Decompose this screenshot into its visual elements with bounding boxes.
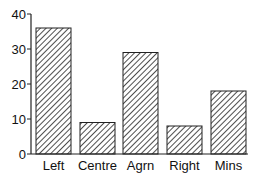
y-tick-label: 0 xyxy=(19,147,26,162)
bars xyxy=(36,28,246,154)
bar-centre xyxy=(80,123,115,155)
y-tick-label: 40 xyxy=(12,7,26,22)
y-tick-label: 20 xyxy=(12,77,26,92)
bar-right xyxy=(167,126,202,154)
x-tick-label: Left xyxy=(43,158,65,173)
bar-mins xyxy=(211,91,246,154)
bar-chart: 010203040 LeftCentreAgrnRightMins xyxy=(0,0,262,179)
x-tick-labels: LeftCentreAgrnRightMins xyxy=(43,158,243,173)
x-tick-label: Agrn xyxy=(127,158,154,173)
x-tick-label: Mins xyxy=(215,158,243,173)
y-axis: 010203040 xyxy=(12,7,31,162)
y-tick-label: 10 xyxy=(12,112,26,127)
bar-left xyxy=(36,28,71,154)
y-tick-label: 30 xyxy=(12,42,26,57)
bar-agrn xyxy=(123,53,158,155)
x-tick-label: Centre xyxy=(78,158,117,173)
x-tick-label: Right xyxy=(169,158,200,173)
